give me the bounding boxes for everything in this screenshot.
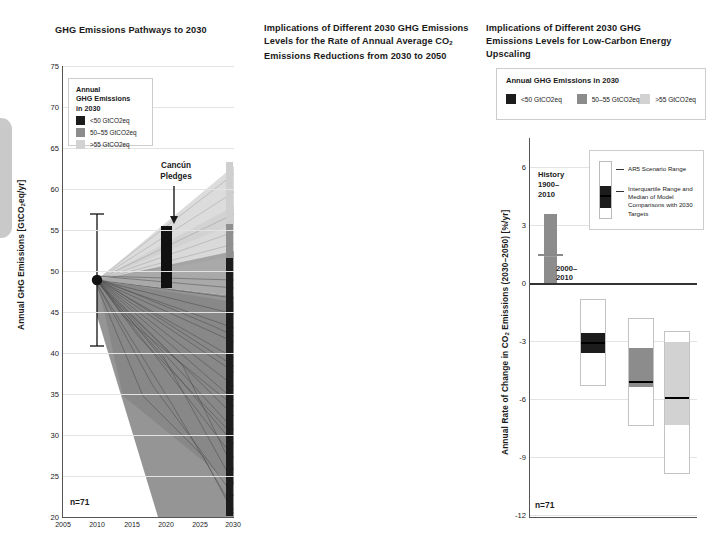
cancun-arrow-icon [169, 186, 179, 226]
panel1-legend-label-0: <50 GtCO2eq [90, 117, 130, 124]
panel-emission-reduction-rates: Implications of Different 2030 GHG Emiss… [244, 0, 468, 554]
panel1-ytick-10: 25 [51, 472, 59, 481]
panel-low-carbon-upscaling: Implications of Different 2030 GHGEmissi… [468, 0, 709, 554]
panel1-ytick-8: 35 [51, 390, 59, 399]
panel1-ytick-0: 75 [51, 62, 59, 71]
panel1-ytick-2: 65 [51, 144, 59, 153]
cancun-pledges-label: CancúnPledges [146, 160, 206, 182]
swatch-lt50-icon [76, 116, 85, 125]
panel1-ytick-6: 45 [51, 308, 59, 317]
panel1-legend-title-2: in 2030 [76, 104, 145, 113]
panel1-legend-label-2: >55 GtCO2eq [90, 141, 130, 148]
panel1-legend-title-0: Annual [76, 85, 145, 94]
panel1-ytick-3: 60 [51, 185, 59, 194]
panel3-title: Implications of Different 2030 GHGEmissi… [486, 22, 686, 61]
swatch-gt55-icon [76, 140, 85, 149]
panel1-ytick-1: 70 [51, 103, 59, 112]
panel1-xtick-1: 2010 [89, 521, 105, 528]
panel1-xtick-5: 2030 [225, 521, 241, 528]
panel1-xtick-2: 2015 [124, 521, 140, 528]
panel1-ytick-7: 40 [51, 349, 59, 358]
panel2-title: Implications of Different 2030 GHG Emiss… [264, 22, 469, 63]
panel1-legend-label-1: 50–55 GtCO2eq [90, 129, 137, 136]
panel1-legend-title-1: GHG Emissions [76, 94, 145, 103]
panel1-ytick-5: 50 [51, 267, 59, 276]
panel1-y-axis-label: Annual GHG Emissions [GtCO2eq/yr] [16, 180, 26, 330]
panel1-ytick-4: 55 [51, 226, 59, 235]
panel1-xtick-0: 2005 [55, 521, 71, 528]
panel1-title: GHG Emissions Pathways to 2030 [55, 24, 240, 37]
panel1-ytick-9: 30 [51, 431, 59, 440]
panel1-xtick-3: 2020 [158, 521, 174, 528]
panel1-n-count: n=71 [70, 497, 89, 507]
panel1-legend-item-2: >55 GtCO2eq [76, 140, 145, 149]
panel1-xtick-4: 2025 [192, 521, 208, 528]
panel-emissions-pathways: GHG Emissions Pathways to 2030 Annual GH… [0, 0, 244, 554]
panel1-legend-item-1: 50–55 GtCO2eq [76, 128, 145, 137]
swatch-50to55-icon [76, 128, 85, 137]
panel1-legend-item-0: <50 GtCO2eq [76, 116, 145, 125]
panel1-legend: Annual GHG Emissions in 2030 <50 GtCO2eq… [68, 78, 153, 146]
